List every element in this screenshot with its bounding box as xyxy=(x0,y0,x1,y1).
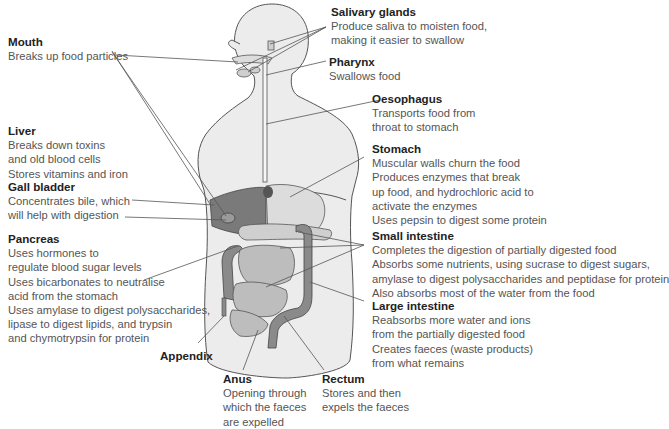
label-appendix: Appendix xyxy=(160,349,213,363)
label-pharynx: Pharynx Swallows food xyxy=(329,55,401,83)
pharynx-desc: Swallows food xyxy=(329,69,401,83)
label-mouth: Mouth Breaks up food particles xyxy=(8,35,128,63)
anus-desc: Opening through which the faeces are exp… xyxy=(223,386,306,429)
pancreas-title: Pancreas xyxy=(8,232,210,246)
stomach-title: Stomach xyxy=(372,142,547,156)
stomach-desc: Muscular walls churn the food Produces e… xyxy=(372,156,547,227)
label-small-intestine: Small intestine Completes the digestion … xyxy=(372,229,669,300)
liver-desc: Breaks down toxins and old blood cells S… xyxy=(8,138,128,181)
salivary-glands-title: Salivary glands xyxy=(331,5,487,19)
label-oesophagus: Oesophagus Transports food from throat t… xyxy=(372,92,475,135)
liver-title: Liver xyxy=(8,124,128,138)
rectum-title: Rectum xyxy=(322,372,409,386)
mouth-title: Mouth xyxy=(8,35,128,49)
label-salivary-glands: Salivary glands Produce saliva to moiste… xyxy=(331,5,487,48)
oesophagus-desc: Transports food from throat to stomach xyxy=(372,106,475,134)
gall-bladder-desc: Concentrates bile, which will help with … xyxy=(8,194,130,222)
pancreas-desc: Uses hormones to regulate blood sugar le… xyxy=(8,246,210,345)
salivary-glands-desc: Produce saliva to moisten food, making i… xyxy=(331,19,487,47)
anus-title: Anus xyxy=(223,372,306,386)
small-intestine-desc: Completes the digestion of partially dig… xyxy=(372,243,669,300)
appendix-title: Appendix xyxy=(160,349,213,363)
label-stomach: Stomach Muscular walls churn the food Pr… xyxy=(372,142,547,227)
small-intestine-title: Small intestine xyxy=(372,229,669,243)
oesophagus-title: Oesophagus xyxy=(372,92,475,106)
label-liver: Liver Breaks down toxins and old blood c… xyxy=(8,124,128,181)
label-rectum: Rectum Stores and then expels the faeces xyxy=(322,372,409,415)
pharynx-title: Pharynx xyxy=(329,55,401,69)
label-gall-bladder: Gall bladder Concentrates bile, which wi… xyxy=(8,180,130,223)
label-pancreas: Pancreas Uses hormones to regulate blood… xyxy=(8,232,210,346)
large-intestine-desc: Reabsorbs more water and ions from the p… xyxy=(372,313,533,370)
gall-bladder-title: Gall bladder xyxy=(8,180,130,194)
large-intestine-title: Large intestine xyxy=(372,299,533,313)
mouth-desc: Breaks up food particles xyxy=(8,49,128,63)
label-anus: Anus Opening through which the faeces ar… xyxy=(223,372,306,429)
label-large-intestine: Large intestine Reabsorbs more water and… xyxy=(372,299,533,370)
rectum-desc: Stores and then expels the faeces xyxy=(322,386,409,414)
